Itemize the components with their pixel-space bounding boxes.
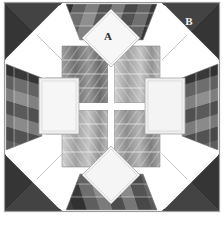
label-b: B	[185, 15, 193, 27]
quilt-block-figure: A B	[0, 0, 224, 225]
quilt-block-illustration: A B	[0, 0, 224, 225]
label-a: A	[104, 30, 112, 42]
light-square-right	[145, 78, 185, 134]
light-square-top-left	[28, 56, 72, 100]
